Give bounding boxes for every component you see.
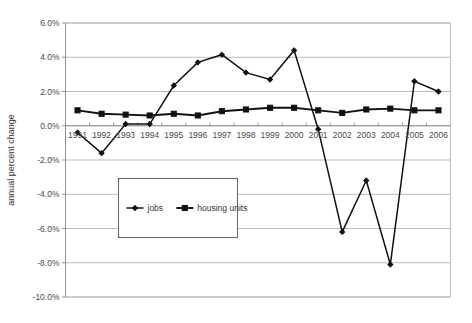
y-tick-label: 4.0% [40,52,60,62]
data-point-marker-square [388,106,393,111]
x-tick-label: 2006 [429,130,448,140]
x-tick-label: 1995 [164,130,183,140]
x-tick-label: 1992 [92,130,111,140]
chart-container: 6.0%4.0%2.0%0.0%-2.0%-4.0%-6.0%-8.0%-10.… [0,0,472,323]
data-point-marker-square [243,107,248,112]
legend-label: housing units [197,203,247,213]
chart-legend[interactable]: jobshousing units [119,179,248,238]
data-point-marker-square [195,113,200,118]
data-point-marker-square [147,113,152,118]
chart-background [0,0,472,323]
x-tick-label: 2001 [309,130,328,140]
x-tick-label: 1993 [116,130,135,140]
x-tick-label: 2000 [285,130,304,140]
y-tick-label: 6.0% [40,18,60,28]
data-point-marker-square [292,105,297,110]
x-tick-label: 1996 [188,130,207,140]
y-tick-label: -2.0% [37,155,60,165]
data-point-marker-square [219,109,224,114]
x-tick-label: 1991 [68,130,87,140]
data-point-marker-square [364,107,369,112]
y-tick-label: -4.0% [37,189,60,199]
y-axis-title-text: annual percent change [6,114,16,206]
data-point-marker-square [75,108,80,113]
x-tick-label: 1998 [237,130,256,140]
y-tick-label: 0.0% [40,121,60,131]
x-tick-label: 1994 [140,130,159,140]
data-point-marker-square [340,110,345,115]
data-point-marker-square [268,105,273,110]
data-point-marker-square [99,111,104,116]
data-point-marker-square [171,111,176,116]
data-point-marker-square [412,108,417,113]
data-point-marker-square [316,108,321,113]
x-tick-label: 2004 [381,130,400,140]
y-tick-label: 2.0% [40,87,60,97]
y-tick-label: -8.0% [37,258,60,268]
legend-label: jobs [147,203,164,213]
y-axis-title: annual percent change [6,114,16,206]
y-tick-label: -10.0% [33,292,60,302]
x-tick-label: 2005 [405,130,424,140]
y-tick-label: -6.0% [37,224,60,234]
x-tick-label: 1999 [261,130,280,140]
x-tick-label: 2002 [333,130,352,140]
data-point-marker-square [182,206,187,211]
data-point-marker-square [436,108,441,113]
data-point-marker-square [123,112,128,117]
x-tick-label: 2003 [357,130,376,140]
x-tick-label: 1997 [212,130,231,140]
annual-percent-change-line-chart: 6.0%4.0%2.0%0.0%-2.0%-4.0%-6.0%-8.0%-10.… [0,0,472,323]
